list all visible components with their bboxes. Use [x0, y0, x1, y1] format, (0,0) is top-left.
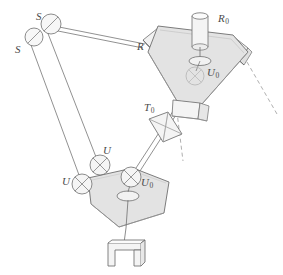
upper-platform-assembly: [143, 13, 252, 121]
joint-label-s-lower-text: S: [15, 43, 21, 55]
joint-label-r0-sub: 0: [225, 17, 229, 26]
joint-label-t0-sub: 0: [151, 106, 155, 115]
joint-label-r-text: R: [137, 40, 144, 52]
lower-platform-assembly: [72, 155, 169, 228]
joint-label-u-lower-text: U: [62, 175, 70, 187]
joint-label-u0-lower: U0: [141, 177, 153, 188]
rod-inner: [31, 45, 79, 175]
joint-label-u-lower: U: [62, 176, 70, 187]
link-s-to-r-bottom: [53, 30, 143, 48]
figure-root: S S R R0 U0 T0 U U U0: [0, 0, 283, 275]
joint-label-s-upper-text: S: [36, 10, 42, 22]
joint-label-u0-upper-text: U: [207, 66, 215, 78]
joint-label-s-lower: S: [15, 44, 21, 55]
joint-label-u0-lower-text: U: [141, 176, 149, 188]
parallelogram-link-rods: [31, 31, 96, 175]
joint-label-u0-upper: U0: [207, 67, 219, 78]
upper-platform-bracket: [172, 100, 209, 121]
spherical-joint-lower: [25, 28, 43, 46]
dashed-axis-right: [247, 62, 277, 114]
universal-joint-upper: [90, 155, 110, 175]
universal-joint-lower: [72, 174, 92, 194]
rod-outer: [47, 31, 96, 157]
joint-label-s-upper: S: [36, 11, 42, 22]
joint-label-u0-lower-sub: 0: [149, 181, 153, 190]
joint-label-r0-text: R: [218, 12, 225, 24]
joint-label-t0: T0: [144, 102, 154, 113]
universal-joint-u0-lower: [121, 167, 141, 187]
link-s-to-r-top: [54, 26, 145, 44]
revolute-disc-lower: [117, 191, 139, 201]
joint-label-u-upper-text: U: [103, 144, 111, 156]
spherical-joint-upper: [41, 14, 61, 34]
joint-label-r0: R0: [218, 13, 229, 24]
joint-label-u-upper: U: [103, 145, 111, 156]
joint-label-u0-upper-sub: 0: [215, 71, 219, 80]
long-connecting-link: [53, 26, 145, 48]
joint-label-r: R: [137, 41, 144, 52]
joint-label-t0-text: T: [144, 101, 150, 113]
gripper-end-effector: [108, 228, 145, 266]
